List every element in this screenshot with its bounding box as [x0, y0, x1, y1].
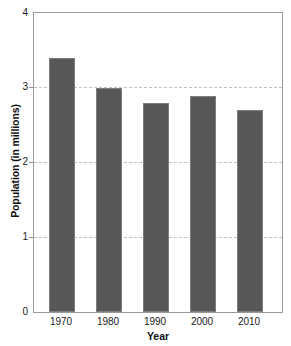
x-tick-label-1980: 1980 — [85, 316, 131, 328]
y-tick-label-4: 4 — [14, 8, 28, 18]
x-tick-label-2010: 2010 — [226, 316, 272, 328]
bar-chart-figure: Population (in millions) 4 3 2 1 0 1970 … — [0, 0, 291, 346]
y-tick-label-2: 2 — [14, 157, 28, 167]
y-tick-label-1: 1 — [14, 232, 28, 242]
bar-1980 — [96, 88, 122, 312]
y-axis-tick-labels: 4 3 2 1 0 — [14, 0, 28, 346]
x-axis-title: Year — [33, 330, 283, 342]
bar-1990 — [143, 103, 169, 312]
x-tick-label-2000: 2000 — [179, 316, 225, 328]
y-tick-label-0: 0 — [14, 307, 28, 317]
x-tick-label-1990: 1990 — [132, 316, 178, 328]
bars-layer — [34, 13, 282, 312]
bar-2000 — [190, 96, 216, 312]
bar-1970 — [49, 58, 75, 312]
y-tick-label-3: 3 — [14, 82, 28, 92]
bar-2010 — [237, 110, 263, 312]
plot-area — [33, 12, 283, 313]
x-tick-label-1970: 1970 — [38, 316, 84, 328]
